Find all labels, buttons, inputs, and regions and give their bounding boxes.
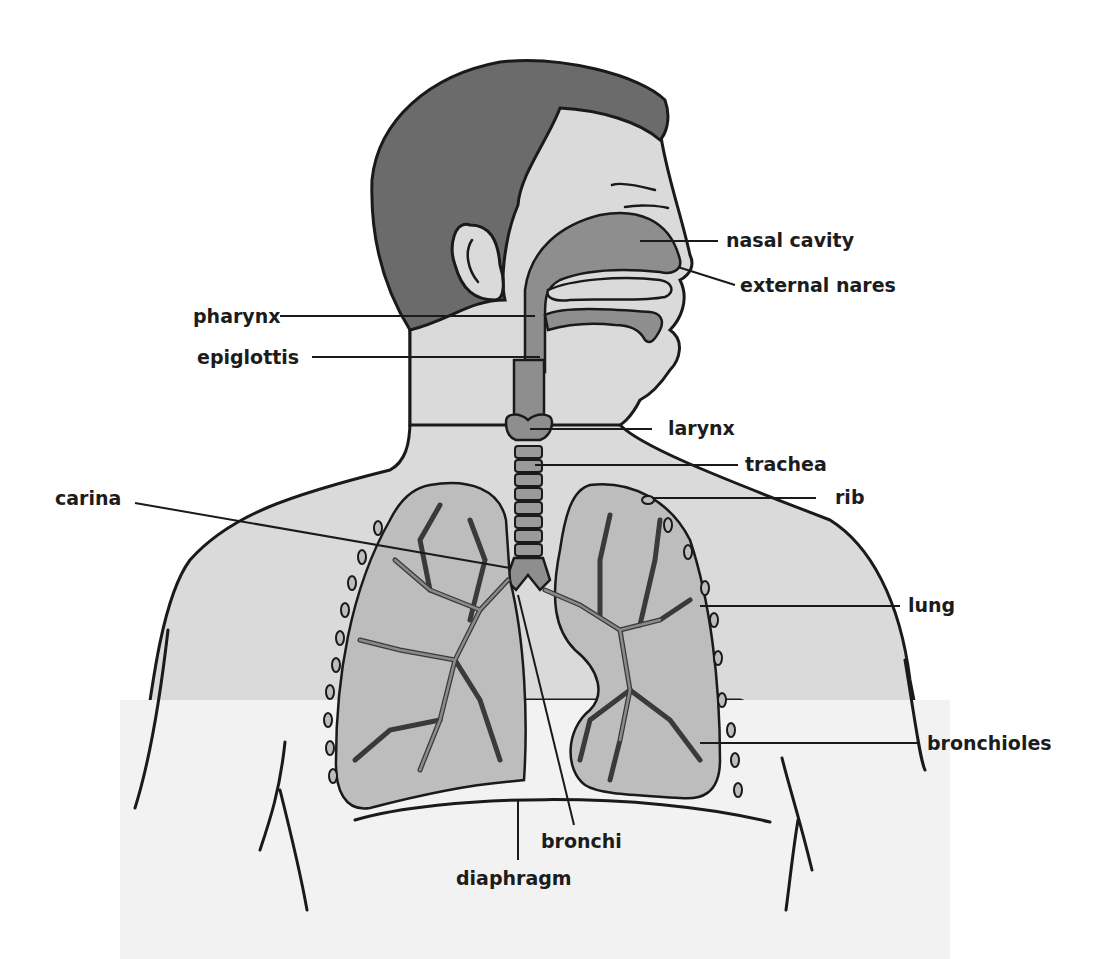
label-external-nares: external nares (740, 274, 896, 296)
label-carina: carina (55, 487, 121, 509)
label-lung: lung (908, 594, 955, 616)
label-diaphragm: diaphragm (456, 867, 572, 889)
label-bronchi: bronchi (541, 830, 622, 852)
label-trachea: trachea (745, 453, 827, 475)
label-nasal-cavity: nasal cavity (726, 229, 855, 251)
label-epiglottis: epiglottis (197, 346, 299, 368)
lower-torso-fill (120, 700, 950, 959)
larynx-cartilage (506, 415, 552, 440)
respiratory-system-diagram: nasal cavity external nares pharynx epig… (0, 0, 1096, 959)
label-pharynx: pharynx (193, 305, 281, 327)
label-bronchioles: bronchioles (927, 732, 1052, 754)
label-larynx: larynx (668, 417, 735, 439)
trachea-rings (515, 446, 542, 556)
label-rib: rib (835, 486, 864, 508)
